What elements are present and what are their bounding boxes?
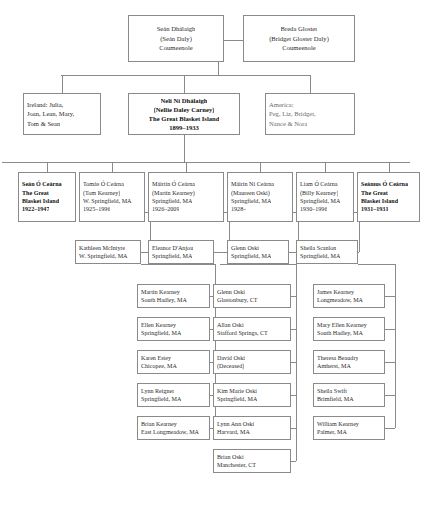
connector-line <box>325 162 326 172</box>
connector-line <box>184 135 185 162</box>
node-line: 1899–1933 <box>169 123 199 132</box>
node-line: Martin Kearney <box>141 288 180 296</box>
node-line: 1926–2009 <box>152 205 179 213</box>
node-line: The Great <box>361 189 388 197</box>
node-line: Springfield, MA <box>231 197 271 205</box>
connector-line <box>389 162 390 172</box>
node-tomas-o-cearna: Tomás Ó Ceárna(Tom Kearney)W. Springfiel… <box>79 172 145 222</box>
node-sean-o-cearna: Seán Ó CeárnaThe GreatBlasket Island1922… <box>18 172 76 222</box>
node-glenn-oski: Glenn OskiSpringfield, MA <box>227 240 289 264</box>
connector-line <box>47 162 48 172</box>
node-line: Springfield, MA <box>152 252 192 260</box>
node-line: Karen Estey <box>141 354 171 362</box>
node-line: Amherst, MA <box>317 362 351 370</box>
node-line: 1922–1947 <box>22 205 49 213</box>
node-mary-ellen-kearney: Mary Ellen KearneySouth Hadley, MA <box>313 317 385 341</box>
connector-line <box>296 264 297 461</box>
node-kathleen-mcintyre: Kathleen McIntyreW. Springfield, MA <box>75 240 141 264</box>
node-sheila-swift: Sheila SwiftBrimfield, MA <box>313 383 385 407</box>
connector-line <box>358 264 395 265</box>
node-line: W. Springfield, MA <box>83 197 132 205</box>
node-line: South Hadley, MA <box>141 296 187 304</box>
node-line: William Kearney <box>317 420 359 428</box>
node-line: 1931–1931 <box>361 205 388 213</box>
node-line: Sheila Swift <box>317 387 347 395</box>
node-line: Ireland: Julia, <box>27 100 63 110</box>
node-line: Chicopee, MA <box>141 362 177 370</box>
node-line: Springfield, MA <box>300 252 340 260</box>
node-line: (Nellie Daley Carney) <box>154 105 215 114</box>
node-line: Springfield, MA <box>300 197 340 205</box>
connector-line <box>184 75 185 93</box>
node-line: East Longmeadow, MA <box>141 428 199 436</box>
family-tree-diagram: Seán Dhálaigh(Seán Daly)CoumeenoleBreda … <box>0 0 436 516</box>
node-line: W. Springfield, MA <box>79 252 128 260</box>
node-line: Liam Ó Ceárna <box>300 180 338 188</box>
node-line: Seámus Ó Ceárna <box>361 180 408 188</box>
connector-line <box>62 75 63 93</box>
node-line: Blasket Island <box>361 197 398 205</box>
node-line: (Martin Kearney) <box>152 189 195 197</box>
node-line: Peg, Liz, Bridget, <box>269 109 316 119</box>
node-line: James Kearney <box>317 288 354 296</box>
node-line: Theresa Beaudry <box>317 354 358 362</box>
node-line: Glastonbury, CT <box>217 296 258 304</box>
connector-line <box>291 461 296 462</box>
node-line: Blasket Island <box>22 197 59 205</box>
node-line: (Billy Kearney) <box>300 189 338 197</box>
node-lynn-reigner: Lynn ReignerSpringfield, MA <box>137 383 210 407</box>
node-neli-ni-dhalaigh: Neli Ní Dhálaigh(Nellie Daley Carney)The… <box>128 93 240 135</box>
node-line: (Seán Daly) <box>160 34 192 44</box>
node-sheila-scanlon: Sheila ScanlonSpringfield, MA <box>296 240 358 264</box>
node-line: Breda Gloster <box>281 24 318 34</box>
node-line: (Bridget Gloster Daly) <box>269 34 329 44</box>
node-line: Tomás Ó Ceárna <box>83 180 124 188</box>
connector-line <box>186 162 187 172</box>
node-ellen-kearney: Ellen KearneySpringfield, MA <box>137 317 210 341</box>
node-line: (Deceased) <box>217 362 244 370</box>
connector-line <box>2 162 410 163</box>
node-line: Springfield, MA <box>141 329 181 337</box>
node-line: 1930–1996 <box>300 205 327 213</box>
node-line: Glenn Oski <box>231 244 259 252</box>
node-karen-estey: Karen EsteyChicopee, MA <box>137 350 210 374</box>
node-martin-kearney: Martin KearneySouth Hadley, MA <box>137 284 210 308</box>
node-line: Springfield, MA <box>231 252 271 260</box>
node-line: Lynn Ann Oski <box>217 420 254 428</box>
node-line: Manchester, CT <box>217 461 256 469</box>
node-line: South Hadley, MA <box>317 329 363 337</box>
connector-line <box>291 428 296 429</box>
node-line: (Tom Kearney) <box>83 189 120 197</box>
connector-line <box>224 40 243 41</box>
node-breda-gloster: Breda Gloster(Bridget Gloster Daly)Coume… <box>243 15 355 62</box>
node-line: Kathleen McIntyre <box>79 244 125 252</box>
node-mairin-ni-cearna: Máirín Ní Ceárna(Maureen Oski)Springfiel… <box>227 172 293 222</box>
node-line: Glenn Oski <box>217 288 245 296</box>
connector-line <box>385 395 395 396</box>
connector-line <box>291 395 296 396</box>
node-line: Longmeadow, MA <box>317 296 363 304</box>
node-line: Lynn Reigner <box>141 387 174 395</box>
node-line: Allan Oski <box>217 321 244 329</box>
node-line: Ellen Kearney <box>141 321 176 329</box>
node-brian-oski: Brian OskiManchester, CT <box>213 449 291 473</box>
node-line: Coumeenole <box>159 43 192 53</box>
node-theresa-beaudry: Theresa BeaudryAmherst, MA <box>313 350 385 374</box>
node-line: Springfield, MA <box>141 395 181 403</box>
node-line: Seán Ó Ceárna <box>22 180 62 188</box>
node-line: (Maureen Oski) <box>231 189 270 197</box>
node-line: America: <box>269 100 294 110</box>
node-line: The Great Blasket Island <box>149 114 220 123</box>
node-brian-kearney: Brian KearneyEast Longmeadow, MA <box>137 416 210 440</box>
node-line: Brian Kearney <box>141 420 177 428</box>
node-eleanor-danjou: Eleanor D'AnjouSpringfield, MA <box>148 240 214 264</box>
connector-line <box>291 296 296 297</box>
node-liam-o-cearna: Liam Ó Ceárna(Billy Kearney)Springfield,… <box>296 172 354 222</box>
node-ireland-siblings: Ireland: Julia,Joan, Lean, Mary,Tom & Se… <box>23 93 101 135</box>
node-line: Springfield, MA <box>152 197 192 205</box>
node-line: Brimfield, MA <box>317 395 354 403</box>
node-line: Joan, Lean, Mary, <box>27 109 74 119</box>
connector-line <box>61 75 310 76</box>
connector-line <box>395 264 396 428</box>
connector-line <box>385 329 395 330</box>
